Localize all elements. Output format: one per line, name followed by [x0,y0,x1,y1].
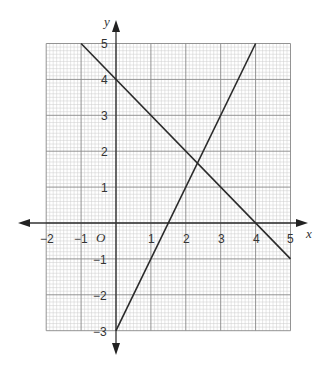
y-tick-label: 4 [101,73,108,87]
y-tick-label: 5 [101,37,108,51]
x-tick-label: 1 [148,232,155,246]
y-axis-down-arrow-icon [112,343,120,355]
x-tick-label: 5 [287,232,294,246]
x-tick-label: −2 [40,232,54,246]
x-tick-label: −1 [74,232,88,246]
x-tick-label: 3 [218,232,225,246]
x-tick-label: 2 [183,232,190,246]
y-tick-label: 2 [101,145,108,159]
y-tick-label: −3 [93,325,107,339]
x-axis-label: x [305,226,312,241]
x-axis-left-arrow-icon [18,219,30,227]
y-tick-label: 3 [101,109,108,123]
coordinate-graph: y x O −2 −1 1 2 3 4 5 5 4 3 2 1 −1 −2 −3 [0,0,324,377]
y-tick-label: −1 [93,253,107,267]
x-tick-label: 4 [253,232,260,246]
y-axis-label: y [102,14,110,29]
y-axis-up-arrow-icon [112,20,120,32]
y-tick-label: −2 [93,289,107,303]
origin-label: O [96,230,106,245]
y-tick-label: 1 [101,181,108,195]
